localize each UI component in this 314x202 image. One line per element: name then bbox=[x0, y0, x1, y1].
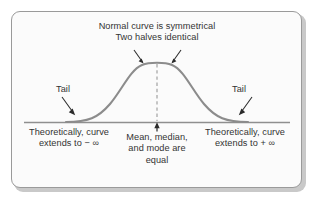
tail-arrow-left bbox=[62, 97, 75, 115]
caption-right-line1: Theoretically, curve bbox=[193, 127, 297, 138]
apex-arrow-right bbox=[171, 50, 181, 64]
apex-arrow-left bbox=[134, 50, 144, 64]
caption-center-line3: equal bbox=[110, 155, 204, 166]
caption-left-line1: Theoretically, curve bbox=[17, 127, 121, 138]
caption-center-line1: Mean, median, bbox=[110, 132, 204, 143]
caption-right-line2: extends to + ∞ bbox=[193, 138, 297, 149]
caption-left: Theoretically, curve extends to − ∞ bbox=[17, 127, 121, 150]
caption-left-line2: extends to − ∞ bbox=[17, 138, 121, 149]
caption-top-line2: Two halves identical bbox=[0, 32, 314, 43]
caption-center: Mean, median, and mode are equal bbox=[110, 132, 204, 166]
caption-top: Normal curve is symmetrical Two halves i… bbox=[0, 21, 314, 44]
caption-center-line2: and mode are bbox=[110, 143, 204, 154]
center-up-arrow bbox=[154, 122, 159, 131]
caption-top-line1: Normal curve is symmetrical bbox=[0, 21, 314, 32]
label-tail-left: Tail bbox=[40, 84, 86, 95]
label-tail-right: Tail bbox=[216, 84, 262, 95]
caption-right: Theoretically, curve extends to + ∞ bbox=[193, 127, 297, 150]
tail-arrow-right bbox=[239, 97, 252, 115]
figure-page: Normal curve is symmetrical Two halves i… bbox=[0, 0, 314, 202]
